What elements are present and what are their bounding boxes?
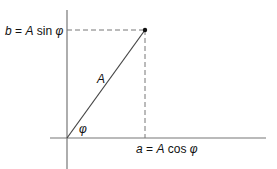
b-label: b = A sin φ xyxy=(5,24,63,38)
phasor-diagram: b = A sin φ A φ a = A cos φ xyxy=(0,0,277,169)
vector-label: A xyxy=(96,72,105,86)
vector-tip-point xyxy=(143,28,147,32)
angle-label: φ xyxy=(79,122,87,136)
a-label: a = A cos φ xyxy=(136,142,198,156)
